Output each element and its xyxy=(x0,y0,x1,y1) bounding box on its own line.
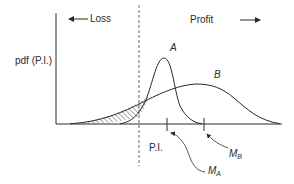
mb-leader-arrow-icon xyxy=(207,134,228,148)
ma-leader-arrow-icon xyxy=(171,133,205,172)
hatched-loss-region xyxy=(72,92,150,124)
profit-label: Profit xyxy=(190,15,213,25)
loss-label: Loss xyxy=(90,14,111,24)
curve-a-label: A xyxy=(170,43,177,53)
curve-b xyxy=(70,84,280,124)
y-axis-label: pdf (P.I.) xyxy=(15,56,52,66)
mb-label: MB xyxy=(229,149,242,160)
ma-label: MA xyxy=(208,166,221,177)
curve-b-label: B xyxy=(214,70,221,80)
ma-label-sub: A xyxy=(216,170,221,177)
mb-label-sub: B xyxy=(237,153,242,160)
pdf-diagram xyxy=(0,0,294,184)
pi-label: P.I. xyxy=(149,143,163,153)
